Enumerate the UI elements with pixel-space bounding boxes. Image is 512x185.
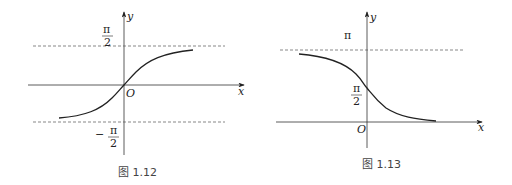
lower-asymptote-denominator: 2 xyxy=(110,137,117,150)
upper-asymptote-denominator: 2 xyxy=(104,36,111,49)
arccot-curve xyxy=(299,54,436,121)
intercept-denominator: 2 xyxy=(353,95,360,108)
figure-arccot: π π 2 O x y 图 1.13 xyxy=(276,11,485,171)
figure-arctan: π 2 − π 2 O x y 图 1.12 xyxy=(28,10,245,179)
figure-caption: 图 1.13 xyxy=(362,158,401,171)
upper-asymptote-label: π xyxy=(344,29,351,42)
x-axis-label: x xyxy=(478,121,485,134)
arctan-curve xyxy=(59,50,193,118)
x-axis-label: x xyxy=(238,85,245,98)
lower-asymptote-sign: − xyxy=(95,128,104,141)
y-axis-label: y xyxy=(126,10,134,23)
upper-asymptote-numerator: π xyxy=(103,23,110,36)
intercept-numerator: π xyxy=(353,82,360,95)
origin-label: O xyxy=(126,87,135,100)
origin-label: O xyxy=(357,123,366,136)
y-axis-label: y xyxy=(369,11,377,24)
lower-asymptote-numerator: π xyxy=(110,124,117,137)
figure-caption: 图 1.12 xyxy=(118,166,157,179)
diagram-canvas: π 2 − π 2 O x y 图 1.12 π π 2 O x y 图 1.1… xyxy=(0,0,512,185)
